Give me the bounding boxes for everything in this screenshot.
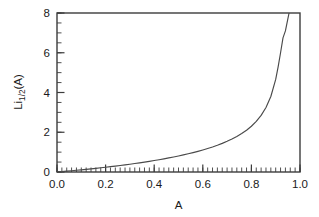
- y-axis-title-subscript: 1/2: [18, 89, 27, 101]
- x-axis-tick-label: 0.6: [195, 178, 211, 190]
- chart-figure: 0.00.20.40.60.81.0 02468 A Li1/2(A): [0, 0, 319, 217]
- x-axis-tick-label: 0.2: [98, 178, 114, 190]
- y-axis-tick-label: 6: [44, 47, 50, 59]
- x-axis-tick-label: 0.8: [243, 178, 259, 190]
- x-axis-tick-label: 0.0: [49, 178, 65, 190]
- y-axis-tick-label: 2: [44, 126, 50, 138]
- y-axis-title-argument: (A): [12, 74, 24, 90]
- y-axis-tick-label: 0: [44, 166, 50, 178]
- y-axis-title-base: Li: [12, 101, 24, 110]
- x-axis-title: A: [175, 199, 183, 211]
- y-axis-tick-label: 4: [44, 87, 51, 99]
- polylogarithm-line-chart: 0.00.20.40.60.81.0 02468 A Li1/2(A): [0, 0, 319, 217]
- x-axis-tick-label: 1.0: [292, 178, 308, 190]
- x-axis-tick-label: 0.4: [146, 178, 163, 190]
- y-axis-tick-label: 8: [44, 7, 50, 19]
